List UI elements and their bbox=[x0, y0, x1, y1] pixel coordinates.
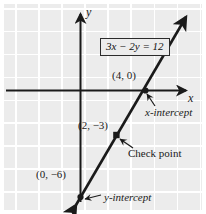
leader-y-intercept bbox=[85, 195, 101, 199]
y-intercept-callout-label: y-intercept bbox=[104, 192, 151, 203]
point-check bbox=[113, 132, 119, 138]
y-axis-label: y bbox=[86, 6, 91, 18]
equation-box: 3x − 2y = 12 bbox=[100, 38, 170, 56]
x-intercept-callout-label: x-intercept bbox=[145, 107, 192, 118]
y-intercept-coords-label: (0, −6) bbox=[36, 169, 66, 180]
check-point-coords-label: (2, −3) bbox=[78, 120, 108, 131]
graph-figure: 3x − 2y = 12 y x (4, 0) x-intercept (2, … bbox=[0, 0, 206, 214]
x-intercept-coords-label: (4, 0) bbox=[112, 70, 136, 81]
x-axis-label: x bbox=[188, 92, 193, 104]
point-y-intercept bbox=[77, 194, 83, 200]
check-point-callout-label: Check point bbox=[128, 148, 181, 159]
point-x-intercept bbox=[142, 87, 148, 93]
equation-text: 3x − 2y = 12 bbox=[106, 40, 164, 52]
leader-x-intercept bbox=[147, 94, 155, 106]
